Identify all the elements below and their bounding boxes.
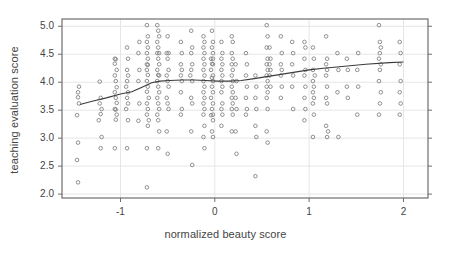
y-tick-label: 3.5 (22, 104, 54, 115)
x-tick-label: -1 (105, 206, 135, 217)
y-tick-label: 2.0 (22, 188, 54, 199)
tick-marks (58, 26, 432, 202)
x-tick-label: 0 (200, 206, 230, 217)
data-points (75, 23, 402, 189)
y-tick-label: 5.0 (22, 20, 54, 31)
y-tick-label: 2.5 (22, 160, 54, 171)
x-axis-title: normalized beauty score (0, 228, 451, 240)
scatter-plot-figure: 2.02.53.03.54.04.55.0-1012 normalized be… (0, 0, 451, 254)
x-tick-label: 1 (294, 206, 324, 217)
x-tick-label: 2 (388, 206, 418, 217)
y-tick-label: 4.0 (22, 76, 54, 87)
y-tick-label: 3.0 (22, 132, 54, 143)
y-axis-title: teaching evaluation score (8, 10, 20, 210)
y-tick-label: 4.5 (22, 48, 54, 59)
